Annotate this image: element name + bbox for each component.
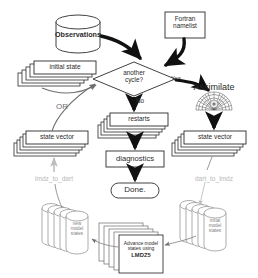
edge-dart-to-lmdz-down [200,182,205,205]
edge-state-vector-right-to-initial-model-states [207,157,212,170]
flowchart-diagram: Observations Fortran namelist initial st… [0,0,258,278]
state-vector-right-node [172,131,246,156]
edge-state-vector-left-to-decision [52,84,95,131]
diagnostics-node [106,151,164,167]
observations-node [56,15,100,53]
done-node [111,183,159,198]
edge-namelist-to-decision [166,39,184,65]
edge-observations-to-decision [101,36,140,58]
initial-model-states-node [180,201,226,252]
state-vector-left-node [14,131,88,156]
initial-state-node [18,61,96,86]
restarts-node [98,113,168,138]
edge-decision-yes-to-assimilate [176,80,208,90]
new-model-states-node [42,204,88,255]
fortran-namelist-node [165,12,205,38]
diagram-canvas [0,0,258,278]
advance-model-node [99,223,163,273]
assimilate-node [196,92,232,110]
another-cycle-decision [93,62,175,96]
